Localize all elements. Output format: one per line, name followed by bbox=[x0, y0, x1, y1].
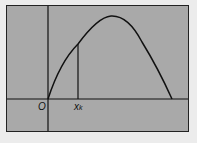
xk-label-subscript: k bbox=[79, 104, 83, 111]
xk-label: xk bbox=[74, 101, 83, 112]
diagram-graph bbox=[0, 0, 197, 143]
origin-label: O bbox=[38, 101, 46, 112]
parabola-curve bbox=[48, 16, 172, 99]
